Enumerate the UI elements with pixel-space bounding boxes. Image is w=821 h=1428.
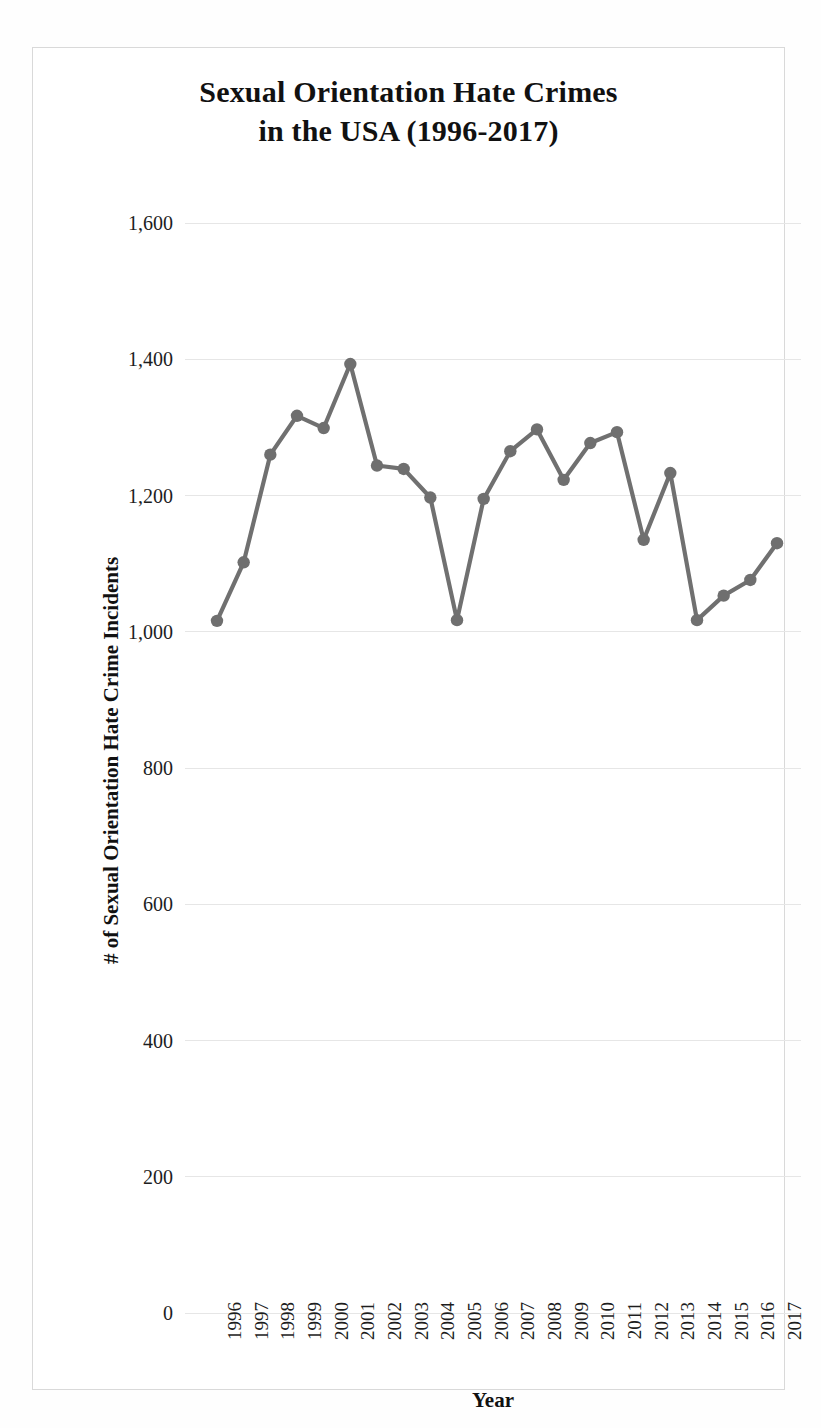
series-line (217, 364, 777, 621)
x-tick-label-2001: 2001 (357, 1302, 379, 1382)
data-point-1999 (291, 410, 303, 422)
x-tick-label-2015: 2015 (731, 1302, 753, 1382)
chart-frame: Sexual Orientation Hate Crimes in the US… (32, 47, 785, 1390)
data-point-2000 (317, 422, 329, 434)
chart-title-line-1: Sexual Orientation Hate Crimes (33, 72, 784, 111)
x-tick-label-2007: 2007 (517, 1302, 539, 1382)
x-tick-label-1996: 1996 (224, 1302, 246, 1382)
data-point-2003 (397, 463, 409, 475)
x-axis-title: Year (185, 1388, 801, 1413)
series-plot (185, 223, 801, 1313)
data-point-2009 (557, 474, 569, 486)
x-tick-label-2012: 2012 (651, 1302, 673, 1382)
plot-area (185, 223, 801, 1313)
data-point-2011 (611, 426, 623, 438)
x-tick-label-1999: 1999 (304, 1302, 326, 1382)
y-tick-label-1,000: 1,000 (128, 620, 173, 643)
x-tick-label-2004: 2004 (437, 1302, 459, 1382)
x-tick-label-2002: 2002 (384, 1302, 406, 1382)
y-tick-label-1,200: 1,200 (128, 484, 173, 507)
x-axis-tick-labels: 1996199719981999200020012002200320042005… (185, 1310, 801, 1390)
chart-title: Sexual Orientation Hate Crimes in the US… (33, 72, 784, 150)
y-tick-label-1,600: 1,600 (128, 212, 173, 235)
x-tick-label-2006: 2006 (491, 1302, 513, 1382)
data-point-2007 (504, 445, 516, 457)
x-tick-label-2010: 2010 (597, 1302, 619, 1382)
y-axis-tick-labels: 02004006008001,0001,2001,4001,600 (93, 223, 173, 1313)
x-tick-label-2016: 2016 (757, 1302, 779, 1382)
y-tick-label-200: 200 (143, 1165, 173, 1188)
chart-page: Sexual Orientation Hate Crimes in the US… (0, 0, 821, 1428)
y-tick-label-1,400: 1,400 (128, 348, 173, 371)
series-markers (211, 358, 783, 627)
data-point-2012 (637, 534, 649, 546)
x-tick-label-2000: 2000 (331, 1302, 353, 1382)
data-point-2006 (477, 493, 489, 505)
data-point-2013 (664, 467, 676, 479)
x-tick-label-2011: 2011 (624, 1302, 646, 1382)
data-point-1996 (211, 615, 223, 627)
x-tick-label-2005: 2005 (464, 1302, 486, 1382)
x-tick-label-2009: 2009 (571, 1302, 593, 1382)
gridlines (185, 223, 801, 1313)
data-point-1997 (237, 556, 249, 568)
data-point-2017 (771, 537, 783, 549)
data-point-2014 (691, 614, 703, 626)
y-tick-label-400: 400 (143, 1029, 173, 1052)
data-point-2015 (717, 589, 729, 601)
data-point-2008 (531, 423, 543, 435)
y-tick-label-0: 0 (163, 1302, 173, 1325)
x-tick-label-1998: 1998 (277, 1302, 299, 1382)
y-tick-label-800: 800 (143, 757, 173, 780)
data-point-2016 (744, 574, 756, 586)
data-point-2010 (584, 437, 596, 449)
x-tick-label-2017: 2017 (784, 1302, 806, 1382)
data-point-2004 (424, 491, 436, 503)
x-tick-label-2013: 2013 (677, 1302, 699, 1382)
data-point-2002 (371, 459, 383, 471)
x-tick-label-1997: 1997 (251, 1302, 273, 1382)
data-point-2005 (451, 614, 463, 626)
x-tick-label-2003: 2003 (411, 1302, 433, 1382)
data-point-1998 (264, 448, 276, 460)
x-tick-label-2014: 2014 (704, 1302, 726, 1382)
chart-title-line-2: in the USA (1996-2017) (33, 111, 784, 150)
data-point-2001 (344, 358, 356, 370)
y-tick-label-600: 600 (143, 893, 173, 916)
x-tick-label-2008: 2008 (544, 1302, 566, 1382)
